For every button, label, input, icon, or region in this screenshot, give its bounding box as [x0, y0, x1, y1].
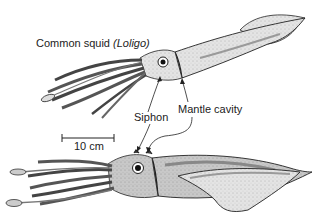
species-title-label: Common squid (Loligo)	[36, 38, 150, 49]
top-squid	[40, 15, 305, 118]
siphon-label: Siphon	[134, 112, 168, 123]
genus-name: (Loligo)	[113, 37, 150, 49]
mantle-cavity-label: Mantle cavity	[178, 104, 242, 115]
bottom-squid	[6, 150, 312, 212]
squid-anatomy-diagram: Common squid (Loligo) Siphon Mantle cavi…	[0, 0, 320, 223]
scale-bar-label: 10 cm	[74, 141, 104, 152]
common-name: Common squid	[36, 37, 110, 49]
